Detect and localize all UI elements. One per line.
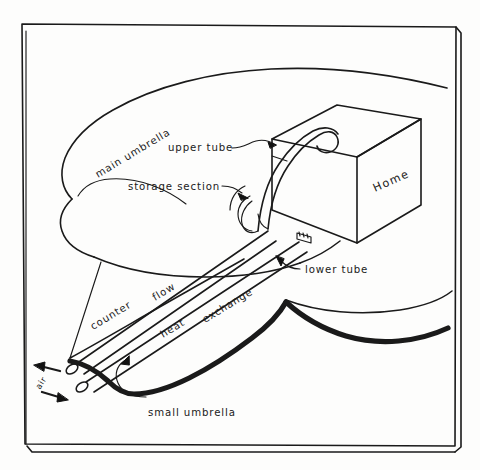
label-air: air — [33, 375, 48, 391]
label-storage-section: storage section — [128, 181, 220, 192]
label-main-umbrella: main umbrella — [93, 126, 172, 179]
counter-flow-heat-exchange-bundle — [64, 231, 307, 394]
main-umbrella-left-nose — [60, 199, 94, 257]
lower-tube-arrowhead — [276, 256, 284, 266]
label-upper-tube: upper tube — [168, 142, 233, 153]
label-exchange: exchange — [200, 286, 254, 325]
upper-tube-outer-wall — [268, 132, 338, 229]
storage-coil-loop-1 — [238, 196, 252, 231]
label-lower-tube: lower tube — [305, 264, 368, 275]
frame-bottom-edge — [27, 446, 455, 452]
air-arrow-out — [34, 362, 60, 371]
storage-section-arrowhead — [238, 193, 248, 200]
main-umbrella — [60, 68, 452, 312]
home-top-face — [272, 105, 421, 157]
air-arrow-out-head — [34, 362, 45, 371]
small-umbrella — [70, 259, 448, 394]
fitting-hatch — [299, 232, 308, 238]
diagram-canvas: main umbrella upper tube storage section… — [0, 0, 480, 470]
label-home: Home — [371, 167, 412, 195]
air-arrow-in — [42, 392, 68, 402]
air-arrow-in-head — [57, 393, 68, 402]
ground-contour-upper — [286, 291, 452, 313]
main-umbrella-front-rim — [94, 257, 300, 277]
figure-root: main umbrella upper tube storage section… — [0, 0, 480, 470]
label-small-umbrella: small umbrella — [148, 407, 236, 418]
